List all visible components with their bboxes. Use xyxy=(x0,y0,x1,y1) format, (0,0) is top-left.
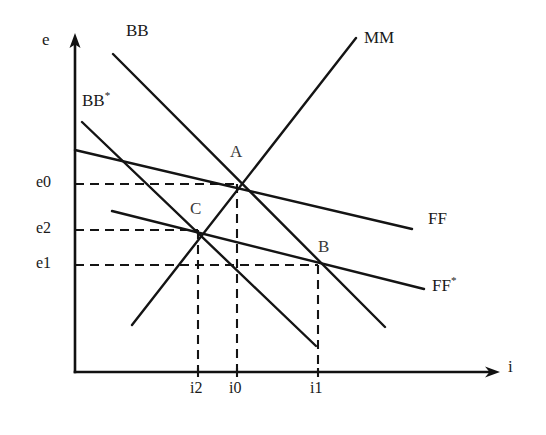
y-axis-label: e xyxy=(42,31,50,48)
curve-label-BB: BB xyxy=(126,22,149,39)
y-value-label-e2: e2 xyxy=(36,220,51,236)
x-axis-label: i xyxy=(508,358,513,375)
x-value-label-i1: i1 xyxy=(310,380,322,396)
curve-label-BB-star: BB* xyxy=(82,90,110,109)
diagram-canvas xyxy=(0,0,546,435)
curve-FF-star xyxy=(112,211,424,289)
point-label-C: C xyxy=(190,200,201,217)
x-value-label-i2: i2 xyxy=(190,380,202,396)
point-label-A: A xyxy=(230,143,242,160)
x-value-label-i0: i0 xyxy=(229,380,241,396)
curves-group xyxy=(75,38,424,346)
point-label-B: B xyxy=(318,238,329,255)
y-value-label-e1: e1 xyxy=(36,255,51,271)
curve-label-FF: FF xyxy=(428,210,447,227)
axes-group xyxy=(70,33,501,378)
curve-label-FF-star: FF* xyxy=(432,275,456,294)
curve-MM xyxy=(132,38,356,325)
y-value-label-e0: e0 xyxy=(36,174,51,190)
economics-diagram-figure: e i BB BB* MM FF FF* A B C e0 e2 e1 i2 i… xyxy=(0,0,546,435)
curve-label-MM: MM xyxy=(364,29,394,46)
curve-FF xyxy=(75,150,412,229)
